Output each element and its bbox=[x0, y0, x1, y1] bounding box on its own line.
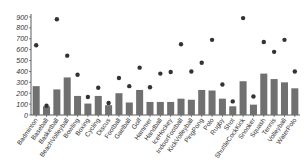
bar bbox=[209, 91, 216, 116]
dot-marker bbox=[117, 76, 121, 80]
dot-marker bbox=[179, 42, 183, 46]
bar bbox=[136, 90, 143, 115]
dot-marker bbox=[148, 85, 152, 89]
chart: 0100200300400500600700800900BadmintonBas… bbox=[0, 0, 307, 166]
dot-marker bbox=[262, 40, 266, 44]
bar bbox=[64, 77, 71, 115]
dot-marker bbox=[158, 71, 162, 75]
bar bbox=[53, 89, 60, 115]
bar bbox=[126, 102, 133, 115]
y-tick-label: 200 bbox=[15, 90, 28, 97]
dot-marker bbox=[272, 50, 276, 54]
bar bbox=[281, 82, 288, 115]
dot-marker bbox=[137, 65, 141, 69]
bar bbox=[240, 81, 247, 115]
bar bbox=[198, 90, 205, 115]
bar bbox=[157, 102, 164, 115]
dot-marker bbox=[200, 61, 204, 65]
bar bbox=[219, 99, 226, 115]
dot-marker bbox=[44, 104, 48, 108]
bar bbox=[178, 99, 185, 115]
y-tick-label: 600 bbox=[16, 46, 28, 53]
y-tick-label: 500 bbox=[16, 57, 28, 64]
y-tick-label: 700 bbox=[16, 35, 28, 42]
dot-marker bbox=[282, 38, 286, 42]
dot-marker bbox=[210, 38, 214, 42]
y-tick-label: 100 bbox=[16, 101, 28, 108]
dot-marker bbox=[34, 43, 38, 47]
dot-marker bbox=[231, 99, 235, 103]
dot-marker bbox=[220, 82, 224, 86]
bar bbox=[291, 88, 298, 115]
dot-marker bbox=[65, 53, 69, 57]
dot-marker bbox=[293, 69, 297, 73]
bar bbox=[188, 100, 195, 115]
dot-marker bbox=[106, 101, 110, 105]
bar bbox=[33, 86, 40, 115]
dot-marker bbox=[127, 84, 131, 88]
bar bbox=[105, 105, 112, 115]
y-tick-label: 800 bbox=[16, 24, 28, 31]
y-tick-label: 0 bbox=[24, 112, 28, 119]
bar bbox=[84, 104, 91, 115]
dot-marker bbox=[189, 69, 193, 73]
bar bbox=[271, 79, 278, 115]
dot-marker bbox=[96, 86, 100, 90]
dot-marker bbox=[86, 95, 90, 99]
bar bbox=[260, 74, 267, 115]
dot-marker bbox=[55, 17, 59, 21]
bar bbox=[229, 106, 236, 115]
y-tick-label: 400 bbox=[16, 68, 28, 75]
y-tick-label: 300 bbox=[16, 79, 28, 86]
dot-marker bbox=[241, 16, 245, 20]
dot-marker bbox=[75, 73, 79, 77]
bar bbox=[146, 102, 153, 115]
bar bbox=[167, 102, 174, 115]
dot-marker bbox=[251, 94, 255, 98]
bar bbox=[74, 96, 81, 115]
bar bbox=[95, 96, 102, 115]
dot-marker bbox=[168, 70, 172, 74]
bar bbox=[115, 93, 122, 115]
bar bbox=[250, 105, 257, 115]
y-tick-label: 900 bbox=[16, 14, 28, 21]
